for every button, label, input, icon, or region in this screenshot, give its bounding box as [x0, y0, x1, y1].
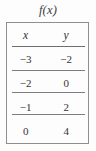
value-x-0: −3	[20, 53, 32, 65]
table-body: −3 −2 −2 0 −1 2 0 4	[7, 47, 88, 143]
table-row: −3 −2	[7, 47, 88, 71]
figure-table-fx: f(x) x y −3 −2 −2 0	[0, 0, 96, 151]
cell-x-3: 0	[7, 119, 44, 143]
row-separator-1	[12, 70, 85, 71]
value-y-1: 0	[63, 77, 69, 89]
row-separator-3	[12, 114, 85, 115]
value-table-grid: x y −3 −2 −2 0 −1 2 0 4	[7, 23, 88, 143]
value-y-3: 4	[63, 125, 69, 137]
cell-x-2: −1	[7, 95, 44, 119]
column-header-y: y	[44, 23, 88, 47]
cell-y-0: −2	[44, 47, 88, 71]
value-x-3: 0	[23, 125, 29, 137]
header-rule	[12, 46, 85, 47]
value-table: x y −3 −2 −2 0 −1 2 0 4	[6, 22, 89, 144]
column-header-x: x	[7, 23, 44, 47]
function-title: f(x)	[0, 3, 96, 17]
value-x-1: −2	[20, 77, 32, 89]
table-row: −1 2	[7, 95, 88, 119]
table-header-row: x y	[7, 23, 88, 47]
table-row: 0 4	[7, 119, 88, 143]
value-x-2: −1	[20, 101, 32, 113]
row-separator-2	[12, 92, 85, 93]
cell-x-0: −3	[7, 47, 44, 71]
table-head: x y	[7, 23, 88, 47]
value-y-0: −2	[60, 53, 72, 65]
cell-y-3: 4	[44, 119, 88, 143]
cell-y-2: 2	[44, 95, 88, 119]
value-y-2: 2	[63, 101, 69, 113]
